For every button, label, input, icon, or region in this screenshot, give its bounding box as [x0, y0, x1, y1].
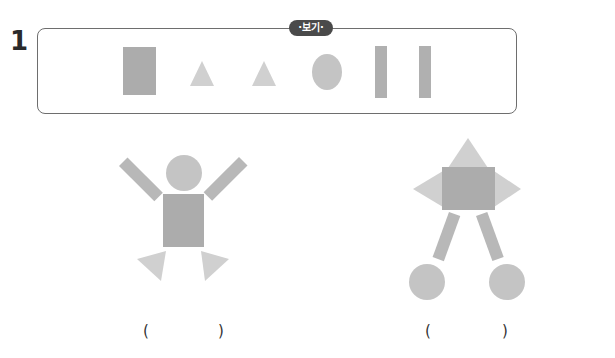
person-head: [166, 155, 202, 191]
answer-1-open-paren: (: [143, 322, 149, 340]
person-foot-right: [201, 251, 229, 281]
person-figure: [119, 155, 247, 281]
person-arm-right: [204, 157, 248, 201]
example-bar-2: [419, 46, 431, 98]
example-triangle-2: [252, 61, 276, 86]
robot-body: [442, 167, 495, 210]
example-rectangle: [123, 47, 156, 95]
person-body: [163, 194, 204, 247]
robot-leg-left: [433, 212, 461, 261]
robot-leg-right: [476, 212, 504, 261]
answer-2-close-paren: ): [502, 322, 508, 340]
shapes-canvas: [0, 0, 615, 358]
robot-right-triangle: [494, 171, 521, 207]
example-shapes: [123, 46, 431, 98]
person-foot-left: [137, 251, 166, 281]
example-bar-1: [375, 46, 387, 98]
robot-left-triangle: [413, 171, 443, 207]
robot-top-triangle: [448, 138, 488, 168]
example-triangle-1: [190, 61, 214, 86]
answer-2-open-paren: (: [425, 322, 431, 340]
robot-foot-right: [489, 264, 525, 300]
example-circle: [312, 54, 342, 90]
robot-foot-left: [409, 264, 445, 300]
answer-1-close-paren: ): [218, 322, 224, 340]
robot-figure: [409, 138, 525, 300]
person-arm-left: [119, 158, 163, 202]
